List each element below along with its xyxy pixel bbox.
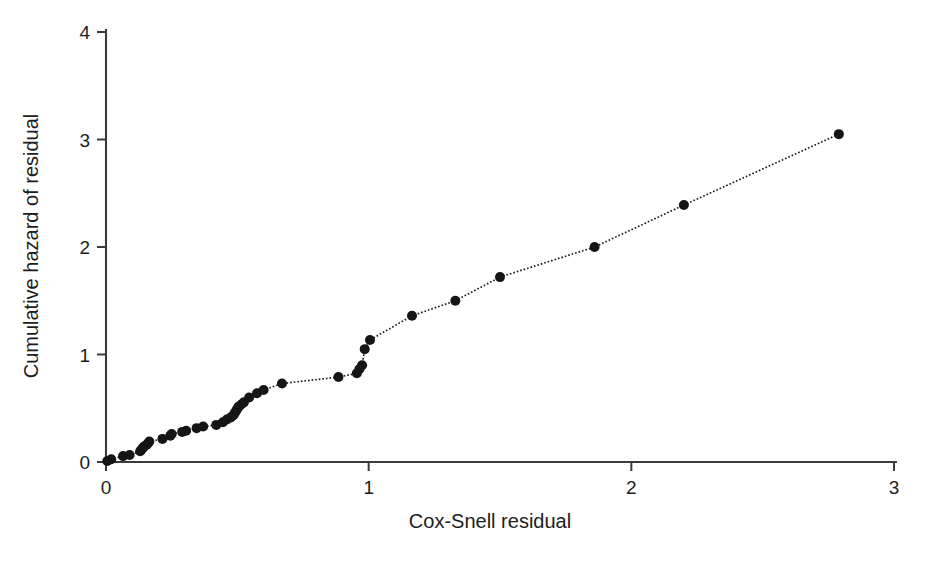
x-axis: 0123: [101, 462, 900, 498]
data-point: [167, 429, 177, 439]
data-point: [450, 296, 460, 306]
data-point: [259, 385, 269, 395]
y-tick-label: 3: [79, 130, 90, 151]
series-connector-line: [107, 134, 839, 461]
data-point: [106, 454, 116, 464]
data-point: [181, 426, 191, 436]
x-tick-label: 0: [101, 477, 112, 498]
data-series: [102, 129, 844, 466]
x-tick-label: 1: [363, 477, 374, 498]
x-tick-label: 2: [626, 477, 637, 498]
chart-figure: Cumulative hazard of residual Cox-Snell …: [0, 0, 940, 564]
data-point: [365, 335, 375, 345]
y-axis-title: Cumulative hazard of residual: [20, 114, 42, 379]
data-point: [125, 450, 135, 460]
y-tick-label: 1: [79, 345, 90, 366]
data-point: [198, 422, 208, 432]
data-point: [360, 344, 370, 354]
x-tick-label: 3: [889, 477, 900, 498]
data-point: [679, 200, 689, 210]
x-axis-title: Cox-Snell residual: [409, 510, 571, 532]
data-point: [277, 379, 287, 389]
data-point: [834, 129, 844, 139]
data-point: [144, 437, 154, 447]
y-tick-label: 0: [79, 452, 90, 473]
y-tick-label: 2: [79, 237, 90, 258]
data-point: [333, 372, 343, 382]
cox-snell-residual-plot: Cumulative hazard of residual Cox-Snell …: [0, 0, 940, 564]
y-tick-label: 4: [79, 22, 90, 43]
data-point: [407, 311, 417, 321]
data-point: [495, 272, 505, 282]
data-point: [357, 360, 367, 370]
y-axis: 01234: [79, 22, 106, 473]
data-point: [590, 242, 600, 252]
